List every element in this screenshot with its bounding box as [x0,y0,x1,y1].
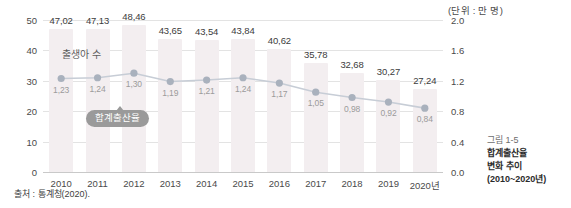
y-tick-left: 10 [26,136,37,147]
plot-frame: 47,0247,1348,4643,6543,5443,8440,6235,78… [43,20,443,172]
tfr-point [94,74,101,81]
bar-value-label: 47,13 [86,15,109,26]
bar-value-label: 40,62 [268,35,291,46]
tfr-value-label: 0,84 [417,114,433,124]
x-tick-label: 2012 [123,178,144,189]
y-tick-right: 0.4 [451,136,464,147]
bar-value-label: 27,24 [413,75,436,86]
tfr-point [167,78,174,85]
bar-value-label: 32,68 [340,59,363,70]
x-tick-label: 2018 [342,178,363,189]
x-tick-label: 2020년 [410,178,440,192]
bar-value-label: 30,27 [377,66,400,77]
caption-line-1: 합계출산율 [487,147,565,160]
tfr-point [239,74,246,81]
plot-area: 47,0247,1348,4643,6543,5443,8440,6235,78… [43,20,443,172]
tfr-point [130,70,137,77]
tfr-value-label: 1,24 [89,84,105,94]
tfr-point [348,94,355,101]
tfr-line-series [43,20,443,172]
y-tick-left: 40 [26,45,37,56]
x-tick-label: 2014 [196,178,217,189]
figure-caption: 그림 1-5 합계출산율 변화 추이 (2010~2020년) [487,134,565,186]
bar-value-label: 47,02 [50,15,73,26]
tfr-value-label: 1,24 [235,84,251,94]
caption-line-2: 변화 추이 [487,160,565,173]
series-label-tfr: 합계출산율 [86,110,149,127]
tfr-point [421,105,428,112]
figure-number: 그림 1-5 [487,134,565,147]
tfr-point [276,79,283,86]
chart-figure: (단위 : 만 명) 47,0247,1348,4643,6543,5443,8… [0,0,571,208]
tfr-point [385,98,392,105]
x-tick-label: 2016 [269,178,290,189]
bar-value-label: 35,78 [304,49,327,60]
y-tick-left: 30 [26,75,37,86]
tfr-value-label: 1,30 [126,79,142,89]
tfr-value-label: 0,92 [380,108,396,118]
x-tick-label: 2011 [87,178,107,189]
y-tick-left: 20 [26,106,37,117]
y-tick-right: 0.8 [451,106,464,117]
y-tick-right: 2.0 [451,15,464,26]
y-tick-left: 0 [32,167,37,178]
series-label-births: 출생아 수 [62,46,101,61]
y-tick-right: 0.0 [451,167,464,178]
tfr-value-label: 0,98 [344,104,360,114]
bar-value-label: 43,84 [231,25,254,36]
tfr-value-label: 1,05 [308,98,324,108]
tfr-point [58,75,65,82]
y-tick-left: 50 [26,15,37,26]
x-tick-label: 2015 [232,178,253,189]
tfr-point [203,76,210,83]
bar-value-label: 48,46 [122,11,145,22]
tfr-point [312,89,319,96]
tfr-value-label: 1,23 [53,85,69,95]
tfr-value-label: 1,19 [162,88,178,98]
gridline [43,172,443,173]
x-tick-label: 2019 [378,178,399,189]
y-tick-right: 1.2 [451,75,464,86]
source-note: 출처 : 통계청(2020). [14,187,90,200]
caption-line-3: (2010~2020년) [487,173,565,186]
tfr-value-label: 1,21 [199,86,215,96]
x-tick-label: 2017 [305,178,326,189]
bar-value-label: 43,65 [159,25,182,36]
y-tick-right: 1.6 [451,45,464,56]
tfr-value-label: 1,17 [271,89,287,99]
bar-value-label: 43,54 [195,26,218,37]
x-tick-label: 2013 [160,178,181,189]
